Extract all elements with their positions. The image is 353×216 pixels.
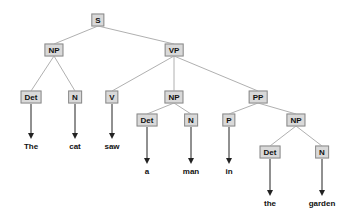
- tree-edge: [112, 56, 174, 91]
- tree-node-n: N: [68, 91, 82, 104]
- tree-node-n: N: [315, 146, 329, 159]
- tree-node-np: NP: [286, 114, 305, 127]
- tree-node-n: N: [184, 114, 198, 127]
- tree-node-det: Det: [137, 114, 158, 127]
- tree-edge: [147, 103, 174, 114]
- tree-edge: [270, 126, 296, 146]
- leaf-word: cat: [69, 142, 81, 151]
- tree-edge: [258, 103, 296, 114]
- tree-node-np: NP: [164, 91, 183, 104]
- tree-node-p: P: [222, 114, 235, 127]
- tree-node-det: Det: [260, 146, 281, 159]
- tree-edge: [98, 26, 174, 44]
- leaf-word: the: [264, 199, 276, 208]
- tree-node-vp: VP: [165, 44, 184, 57]
- tree-edge: [174, 56, 258, 91]
- leaf-word: a: [145, 167, 149, 176]
- tree-edge: [174, 103, 191, 114]
- tree-edge: [54, 56, 75, 91]
- tree-edge: [54, 26, 98, 44]
- leaf-word: garden: [309, 199, 336, 208]
- tree-edge: [31, 56, 54, 91]
- leaf-word: The: [24, 142, 38, 151]
- tree-node-np: NP: [44, 44, 63, 57]
- leaf-word: in: [225, 167, 232, 176]
- leaf-word: man: [183, 167, 199, 176]
- tree-node-s: S: [91, 14, 104, 27]
- tree-node-pp: PP: [249, 91, 268, 104]
- tree-node-v: V: [105, 91, 118, 104]
- tree-edge: [296, 126, 322, 146]
- tree-edge: [229, 103, 258, 114]
- tree-node-det: Det: [21, 91, 42, 104]
- leaf-word: saw: [104, 142, 119, 151]
- tree-edges: [0, 0, 353, 216]
